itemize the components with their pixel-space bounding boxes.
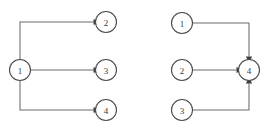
node-label: 2 xyxy=(180,66,185,76)
edge-1-to-4[interactable] xyxy=(193,23,253,63)
node-label: 3 xyxy=(180,106,185,116)
node-4[interactable]: 4 xyxy=(96,100,117,121)
node-label: 4 xyxy=(104,106,109,116)
node-4[interactable]: 4 xyxy=(239,60,260,81)
node-label: 3 xyxy=(104,66,109,76)
node-2[interactable]: 2 xyxy=(172,60,193,81)
edge-line xyxy=(193,23,250,57)
edge-2-to-4[interactable] xyxy=(193,67,243,73)
edge-1-to-2[interactable] xyxy=(20,19,100,60)
edge-line xyxy=(20,81,94,111)
node-label: 1 xyxy=(180,19,185,29)
edge-1-to-3[interactable] xyxy=(31,67,100,73)
edge-1-to-4[interactable] xyxy=(20,81,100,114)
fan-in-graph: 1234 xyxy=(172,13,260,121)
fan-out-graph: 1234 xyxy=(10,12,117,121)
node-3[interactable]: 3 xyxy=(172,100,193,121)
node-1[interactable]: 1 xyxy=(172,13,193,34)
node-label: 4 xyxy=(247,66,252,76)
node-1[interactable]: 1 xyxy=(10,60,31,81)
node-label: 1 xyxy=(18,66,23,76)
node-2[interactable]: 2 xyxy=(96,12,117,33)
edge-line xyxy=(20,22,94,60)
edge-line xyxy=(193,84,250,111)
node-3[interactable]: 3 xyxy=(96,60,117,81)
diagram-svg: 12341234 xyxy=(0,0,273,128)
node-label: 2 xyxy=(104,18,109,28)
diagram-canvas: 12341234 xyxy=(0,0,273,128)
edge-3-to-4[interactable] xyxy=(193,77,253,110)
